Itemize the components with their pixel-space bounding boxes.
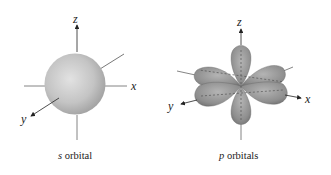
p-orbitals-diagram: z x y	[165, 0, 331, 175]
x-axis-front	[285, 95, 301, 98]
p-orbitals-figure: z x y p orbitals	[165, 0, 331, 175]
y-axis-back	[100, 54, 124, 69]
p-orbital-lobes	[194, 46, 287, 125]
y-axis-label: y	[20, 112, 27, 126]
x-axis-label: x	[304, 92, 311, 106]
z-axis-label: z	[236, 15, 242, 29]
y-axis-front	[31, 98, 59, 116]
caption-text: orbitals	[224, 150, 258, 161]
y-axis-front	[181, 100, 197, 104]
x-axis-label: x	[130, 79, 137, 93]
s-orbital-sphere	[45, 54, 106, 115]
caption-text: orbital	[62, 150, 92, 161]
y-axis-label: y	[167, 99, 174, 113]
z-axis-label: z	[72, 12, 78, 26]
s-orbital-diagram: z x y	[0, 0, 166, 175]
s-orbital-figure: z x y s orbital	[0, 0, 166, 175]
s-orbital-caption: s orbital	[58, 150, 92, 161]
p-orbitals-caption: p orbitals	[219, 150, 258, 161]
